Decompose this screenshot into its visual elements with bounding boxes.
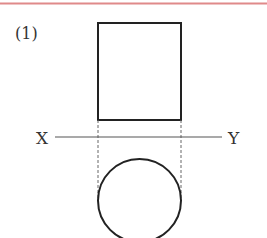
diagram-canvas: (1) X Y (0, 0, 267, 238)
front-view-rectangle (98, 23, 181, 120)
figure-label: (1) (15, 24, 38, 43)
axis-label-y: Y (227, 128, 240, 148)
axis-label-x: X (36, 128, 49, 148)
top-view-circle (98, 159, 181, 238)
